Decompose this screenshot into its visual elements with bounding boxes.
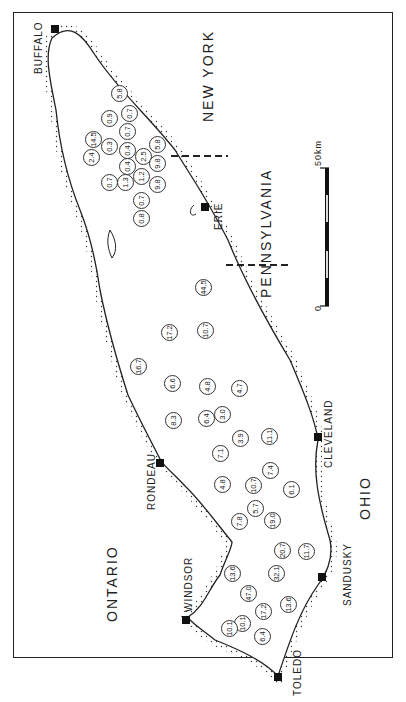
region-label-pennsylvania: PENNSYLVANIA xyxy=(258,169,274,298)
sample-site: 6.4 xyxy=(198,410,215,427)
sample-site-value: 10.1 xyxy=(225,621,234,636)
sample-site: 7.4 xyxy=(262,462,279,479)
sample-site: 13.6 xyxy=(280,596,297,613)
sample-site-value: 13.6 xyxy=(284,597,293,612)
sample-site-value: 20.7 xyxy=(278,543,287,558)
city-marker-buffalo xyxy=(51,25,59,33)
sample-site: 20.7 xyxy=(274,542,291,559)
city-label-toledo: TOLEDO xyxy=(292,649,303,696)
sample-site: 11.1 xyxy=(261,428,278,445)
sample-site: 8.3 xyxy=(165,412,182,429)
sample-site-value: 1.2 xyxy=(137,171,146,181)
sample-site-value: 17.2 xyxy=(259,604,268,619)
sample-site-value: 8.3 xyxy=(169,415,178,425)
sample-site-value: 9.8 xyxy=(153,158,162,168)
sample-site-value: 4.7 xyxy=(235,383,244,393)
sample-site-value: 0.7 xyxy=(123,126,132,136)
sample-site-value: 6.4 xyxy=(258,631,267,641)
sample-site: 1.2 xyxy=(133,168,150,185)
sample-site-value: 10.1 xyxy=(238,616,247,631)
sample-site: 10.1 xyxy=(221,620,238,637)
city-label-rondeau: RONDEAU xyxy=(146,453,157,510)
sample-site: 0.7 xyxy=(119,123,136,140)
sample-site-value: 5.8 xyxy=(115,88,124,98)
sample-site: 32.1 xyxy=(268,565,285,582)
sample-site-value: 2.4 xyxy=(87,152,96,162)
sample-site-value: 0.8 xyxy=(137,213,146,223)
sample-site: 2.4 xyxy=(83,149,100,166)
sample-site: 0.7 xyxy=(121,105,138,122)
sample-site: 0.3 xyxy=(101,138,118,155)
sample-site: 4.8 xyxy=(214,476,231,493)
sample-site-value: 10.7 xyxy=(249,478,258,493)
sample-site-value: 4.8 xyxy=(203,381,212,391)
city-marker-rondeau xyxy=(156,459,164,467)
city-marker-sandusky xyxy=(318,573,326,581)
sample-site: 5.7 xyxy=(247,500,264,517)
sample-site-value: 2.5 xyxy=(139,151,148,161)
sample-site-value: 14.5 xyxy=(89,132,98,147)
sample-site-value: 11.7 xyxy=(302,544,311,558)
sample-site-value: 7.8 xyxy=(235,516,244,526)
scale-bar-zero-label: 0 xyxy=(313,305,323,311)
sample-site-value: 6.1 xyxy=(287,484,296,494)
sample-site-value: 5.7 xyxy=(251,503,260,513)
sample-site: 6.6 xyxy=(164,375,181,392)
sample-site: 0.9 xyxy=(101,110,118,127)
city-label-sandusky: SANDUSKY xyxy=(342,543,353,606)
city-marker-windsor xyxy=(182,616,190,624)
sample-site-value: 0.4 xyxy=(123,145,132,155)
sample-site-value: 11.1 xyxy=(265,429,274,443)
sample-site-value: 19.0 xyxy=(268,513,277,528)
sample-site: 11.7 xyxy=(298,543,315,560)
sample-site-value: 7.1 xyxy=(216,448,225,458)
sample-site-value: 7.4 xyxy=(266,465,275,475)
sample-site-value: 0.9 xyxy=(105,113,114,123)
sample-site: 14.5 xyxy=(85,131,102,148)
sample-site: 4.7 xyxy=(231,380,248,397)
sample-site-value: 0.7 xyxy=(137,195,146,205)
sample-site-value: 6.4 xyxy=(202,413,211,423)
sample-site: 17.2 xyxy=(255,603,272,620)
sample-site: 17.2 xyxy=(161,324,178,341)
sample-site-value: 0.4 xyxy=(123,161,132,171)
sample-site: 19.0 xyxy=(264,512,281,529)
sample-site-value: 13.6 xyxy=(228,566,237,581)
sample-site-value: 3.9 xyxy=(236,433,245,443)
sample-site: 9.8 xyxy=(149,176,166,193)
sample-site: 0.7 xyxy=(133,192,150,209)
sample-site-value: 9.8 xyxy=(153,179,162,189)
sample-site: 47.0 xyxy=(240,585,257,602)
sample-site-value: 4.8 xyxy=(218,479,227,489)
region-label-ohio: OHIO xyxy=(357,476,373,520)
sample-site-value: 44.5 xyxy=(199,280,208,295)
sample-site: 0.8 xyxy=(133,210,150,227)
sample-site: 16.7 xyxy=(130,358,147,375)
sample-site: 0.7 xyxy=(101,174,118,191)
region-label-ontario: ONTARIO xyxy=(104,545,120,622)
sample-site-value: 10.7 xyxy=(201,323,210,338)
sample-site-value: 3.0 xyxy=(218,409,227,419)
city-marker-cleveland xyxy=(314,433,322,441)
sample-site: 13.6 xyxy=(224,565,241,582)
sample-site-value: 32.1 xyxy=(272,566,281,581)
sample-site-value: 5.8 xyxy=(153,139,162,149)
sample-site: 6.1 xyxy=(283,481,300,498)
sample-site-value: 16.7 xyxy=(134,359,143,374)
sample-site: 5.8 xyxy=(111,85,128,102)
sample-site: 4.8 xyxy=(199,378,216,395)
sample-site: 5.8 xyxy=(149,136,166,153)
sample-site: 7.8 xyxy=(231,513,248,530)
sample-site: 0.4 xyxy=(119,142,136,159)
sample-site: 3.9 xyxy=(232,430,249,447)
sample-site: 1.3 xyxy=(117,174,134,191)
sample-site: 7.1 xyxy=(212,445,229,462)
sample-site-value: 6.6 xyxy=(168,378,177,388)
sample-site: 9.8 xyxy=(149,155,166,172)
sample-site-value: 1.3 xyxy=(121,177,130,187)
scale-bar xyxy=(320,168,329,306)
city-label-erie: ERIE xyxy=(213,203,224,230)
sample-site-value: 0.7 xyxy=(105,177,114,187)
city-label-cleveland: CLEVELAND xyxy=(323,400,334,468)
city-label-windsor: WINDSOR xyxy=(183,557,194,612)
